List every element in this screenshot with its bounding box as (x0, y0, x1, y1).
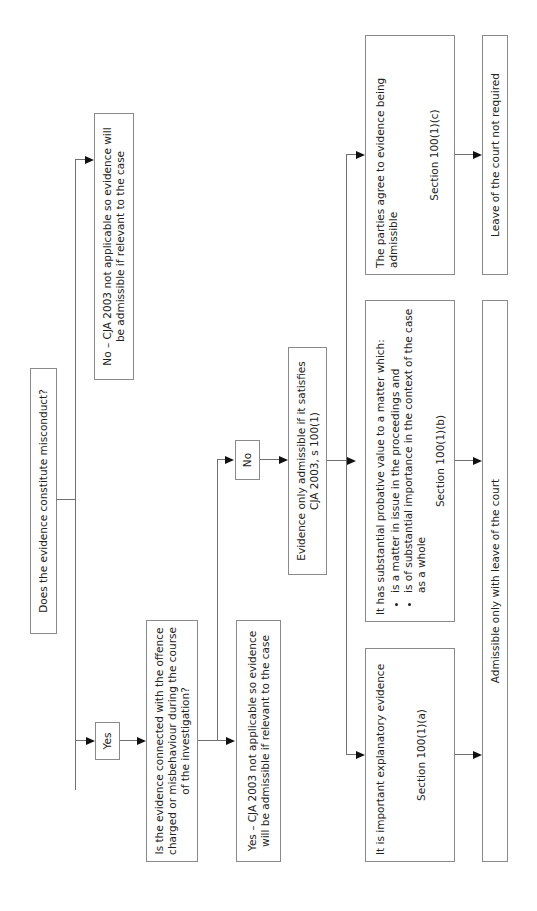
connector (327, 460, 346, 461)
no-not-applicable-text: No – CJA 2003 not applicable so evidence… (101, 120, 127, 373)
yes-not-applicable-text: Yes – CJA 2003 not applicable so evidenc… (246, 627, 272, 855)
arrow-icon (225, 456, 234, 464)
yes-label-text: Yes (101, 733, 114, 750)
connector (455, 754, 473, 755)
arrow-icon (347, 457, 356, 465)
no-not-applicable-box: No – CJA 2003 not applicable so evidence… (94, 113, 134, 380)
arrow-icon (279, 456, 288, 464)
yes-not-applicable-box: Yes – CJA 2003 not applicable so evidenc… (236, 620, 281, 862)
connector (217, 460, 218, 741)
connector (217, 459, 225, 460)
connector (346, 154, 356, 155)
option-b-bullet: is of substantial importance in the cont… (402, 307, 428, 593)
connector (346, 754, 356, 755)
option-b-bullets: is a matter in issue in the proceedings … (389, 307, 428, 615)
s100-gate-text: Evidence only admissible if it satisfies… (295, 354, 321, 568)
option-c-box: The parties agree to evidence being admi… (365, 35, 455, 275)
option-b-box: It has substantial probative value to a … (365, 300, 455, 622)
outcome-leave-not-required-box: Leave of the court not required (482, 35, 508, 275)
arrow-icon (356, 751, 365, 759)
start-question-box: Does the evidence constitute misconduct? (30, 368, 57, 634)
connector (455, 460, 473, 461)
connected-question-text: Is the evidence connected with the offen… (153, 627, 192, 855)
connector (120, 740, 137, 741)
option-a-text: It is important explanatory evidence (374, 655, 387, 855)
connector (260, 459, 279, 460)
no-label-box: No (235, 440, 260, 480)
start-question-text: Does the evidence constitute misconduct? (37, 389, 50, 613)
outcome-leave-not-required-text: Leave of the court not required (489, 73, 502, 237)
flowchart: Does the evidence constitute misconduct?… (0, 0, 537, 911)
arrow-icon (473, 151, 482, 159)
connector (455, 154, 473, 155)
connector (75, 159, 85, 160)
outcome-leave-required-box: Admissible only with leave of the court (482, 300, 508, 862)
connected-question-box: Is the evidence connected with the offen… (146, 620, 198, 862)
arrow-icon (137, 737, 146, 745)
arrow-icon (86, 737, 95, 745)
connector (198, 740, 226, 741)
arrow-icon (473, 457, 482, 465)
option-a-section: Section 100(1)(a) (415, 709, 428, 801)
outcome-leave-required-text: Admissible only with leave of the court (489, 479, 502, 683)
option-c-section: Section 100(1)(c) (428, 109, 441, 200)
connector (346, 155, 347, 755)
arrow-icon (356, 151, 365, 159)
option-c-text: The parties agree to evidence being admi… (374, 42, 400, 268)
option-a-box: It is important explanatory evidence Sec… (365, 648, 455, 862)
connector (75, 160, 76, 790)
connector (56, 499, 75, 500)
arrow-icon (85, 156, 94, 164)
option-b-bullet: is a matter in issue in the proceedings … (389, 307, 402, 593)
option-b-section: Section 100(1)(b) (434, 415, 447, 507)
arrow-icon (226, 737, 235, 745)
option-b-text: It has substantial probative value to a … (374, 307, 387, 615)
arrow-icon (473, 751, 482, 759)
no-label-text: No (241, 453, 254, 467)
yes-label-box: Yes (95, 722, 120, 760)
s100-gate-box: Evidence only admissible if it satisfies… (288, 347, 327, 575)
